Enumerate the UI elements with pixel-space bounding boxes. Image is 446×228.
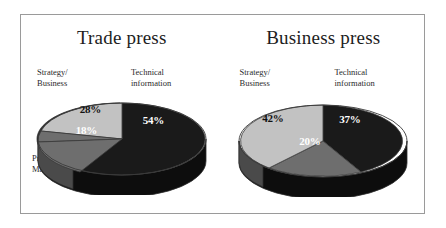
value-label-strategy-business-right: 42%: [262, 112, 283, 124]
value-label-technical-information-left: 54%: [143, 114, 164, 126]
callout-technical-information-right: Technical information: [335, 67, 375, 88]
pie-chart-business-press: 42% 20% 37%: [233, 89, 413, 197]
callout-strategy-business-right: Strategy/ Business: [240, 67, 271, 88]
value-label-promotion-marketing-right: 20%: [299, 135, 320, 147]
value-label-technical-information-right: 37%: [339, 113, 360, 125]
value-label-promotion-marketing-left: 18%: [76, 124, 97, 136]
value-label-strategy-business-left: 28%: [80, 103, 101, 115]
figure-frame: Trade press Strategy/ Business Technical…: [20, 14, 425, 214]
chart-panel-business-press: Business press Strategy/ Business Techni…: [223, 15, 425, 213]
chart-panels: Trade press Strategy/ Business Technical…: [21, 15, 424, 213]
chart-panel-trade-press: Trade press Strategy/ Business Technical…: [21, 15, 223, 213]
page-title-trade-press: Trade press: [21, 27, 223, 49]
pie-chart-svg-right: [233, 89, 413, 197]
pie-chart-svg-left: [32, 87, 212, 195]
callout-technical-information-left: Technical information: [131, 67, 171, 88]
page-title-business-press: Business press: [223, 27, 425, 49]
callout-strategy-business-left: Strategy/ Business: [37, 67, 68, 88]
pie-chart-trade-press: 28% 18% 54%: [32, 87, 212, 195]
